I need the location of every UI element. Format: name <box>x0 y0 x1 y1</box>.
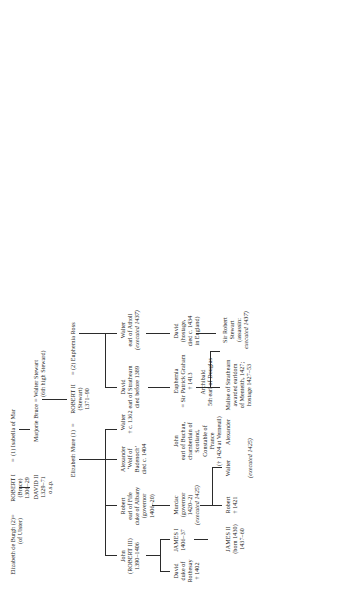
marriage-equals-5: = <box>70 369 77 377</box>
node-line: (hostage, <box>180 308 187 354</box>
node-line: 1306–29 <box>24 462 31 514</box>
node-line: (governor <box>141 478 148 534</box>
connector-h <box>160 540 161 572</box>
node-malise-of-strathearn: Malise of Strathearn awarded earldom of … <box>225 350 254 420</box>
connector-v <box>105 459 117 460</box>
node-line: Elizabeth de Burgh (2) <box>10 518 17 588</box>
node-archibald-douglas: Archibald 5th earl of Douglas <box>200 354 214 410</box>
node-line: ROBERT I <box>10 462 17 514</box>
marriage-equals-1: = <box>10 512 17 520</box>
connector-v <box>79 459 105 460</box>
connector-v <box>212 467 222 468</box>
marriage-equals-4: = <box>70 421 77 429</box>
node-elizabeth-mure: Elizabeth Mure (1) <box>70 430 77 494</box>
node-line: earl of Strathearn <box>127 360 134 414</box>
connector-v <box>19 429 30 430</box>
node-line: † 1402 <box>194 544 201 598</box>
connector-v <box>42 399 67 400</box>
node-robert-i: ROBERT I (Bruce) 1306–29 <box>10 462 31 514</box>
node-line: executed 1437) <box>243 306 250 354</box>
node-line: died c. 1404 <box>141 436 148 482</box>
node-sir-robert-stewart: Sir Robert Stewart (assassin: executed 1… <box>222 306 251 354</box>
node-murdac: Murdac (governor 1420–2) (executed 1425) <box>173 482 202 528</box>
node-line: (assassin: <box>236 306 243 354</box>
connector-v <box>152 505 170 506</box>
node-line: 1420–2) <box>187 482 194 528</box>
node-line: Euphemia <box>173 350 180 412</box>
node-robert-ii: ROBERT II (Stewart) 1371–90 <box>70 376 91 422</box>
node-robert-fife-albany: Robert earl of Fife duke of Albany (gove… <box>120 478 156 534</box>
node-executed-1425-note: (executed 1425) <box>247 430 254 486</box>
connector-v <box>148 387 170 388</box>
node-line: Marjorie Bruce <box>33 404 40 460</box>
node-line: died c. 1434 <box>187 308 194 354</box>
node-elizabeth-de-burgh: Elizabeth de Burgh (2) (of Ulster) <box>10 518 24 588</box>
node-david-hostage: David (hostage, died c. 1434 in England) <box>173 308 202 354</box>
node-line: Scotland, <box>194 404 201 478</box>
node-walter-stewart: Walter Stewart (6th high Steward) <box>33 325 47 397</box>
node-line: (of Ulster) <box>17 518 24 588</box>
node-line: Murdac <box>173 482 180 528</box>
node-line: Malise of Strathearn <box>225 350 232 420</box>
family-tree-diagram: Elizabeth de Burgh (2) (of Ulster) ROBER… <box>0 0 350 606</box>
node-line: Robert <box>120 478 127 534</box>
node-line: 1406–20) <box>149 478 156 534</box>
connector-v <box>196 333 216 334</box>
node-line: (Bruce) <box>17 462 24 514</box>
node-line: (executed 1425) <box>247 430 254 486</box>
node-line: Constable of <box>202 404 209 478</box>
node-line: (1) Isabella of Mar <box>10 378 17 456</box>
node-line: John <box>173 404 180 478</box>
connector-v <box>160 571 170 572</box>
marriage-equals-2: = <box>10 456 17 464</box>
node-line: 1437–60 <box>239 516 246 562</box>
connector-v <box>105 429 117 430</box>
node-line: Walter Stewart <box>33 325 40 397</box>
node-david-ii: DAVID II 1329–71 o.s.p. <box>33 464 54 510</box>
node-line: (2) Euphemia Ross <box>70 294 77 370</box>
node-line: Elizabeth Mure (1) <box>70 430 77 494</box>
node-isabella-of-mar: (1) Isabella of Mar <box>10 378 17 456</box>
node-line: (Stewart) <box>77 376 84 422</box>
connector-v <box>146 333 170 334</box>
connector-v <box>105 505 117 506</box>
node-line: † 1421 <box>232 486 239 524</box>
connector-v <box>160 539 170 540</box>
node-line: earl of Fife <box>127 478 134 534</box>
node-david-earl-of-strathearn: David earl of Strathearn died before 138… <box>120 360 141 414</box>
node-line: Walter <box>120 304 127 356</box>
node-line: Robert <box>225 486 232 524</box>
connector-v <box>79 333 105 334</box>
node-line: hostage 1427–53 <box>246 350 253 420</box>
node-line: † 1413 <box>187 350 194 412</box>
node-line: o.s.p. <box>47 464 54 510</box>
node-line: (6th high Steward) <box>40 325 47 397</box>
node-line: (ROBERT III) <box>127 526 134 586</box>
node-line: Rothesay <box>187 544 194 598</box>
node-line: Badenoch’ <box>134 436 141 482</box>
node-line: Archibald <box>200 354 207 410</box>
node-marjorie-bruce: Marjorie Bruce <box>33 404 40 460</box>
node-line: died before 1389 <box>134 360 141 414</box>
connector-v <box>212 505 222 506</box>
connector-h <box>212 468 213 506</box>
node-line: John <box>120 526 127 586</box>
connector-h <box>105 334 106 388</box>
connector-v <box>105 555 117 556</box>
node-line: ROBERT II <box>70 376 77 422</box>
node-line: 5th earl of Douglas <box>207 354 214 410</box>
connector-v <box>146 555 160 556</box>
node-line: Sir Robert <box>222 306 229 354</box>
node-walter-earl-of-atholl: Walter earl of Atholl (executed 1437) <box>120 304 141 356</box>
connector-v <box>19 487 30 488</box>
node-line: = Sir Patrick Graham <box>180 350 187 412</box>
node-line: (executed 1437) <box>134 304 141 356</box>
node-line: chamberlain of <box>187 404 194 478</box>
node-line: 1329–71 <box>40 464 47 510</box>
node-line: (governor <box>180 482 187 528</box>
connector-v <box>194 539 208 540</box>
node-euphemia-ross: (2) Euphemia Ross <box>70 294 77 370</box>
connector-v <box>200 505 212 506</box>
connector-v <box>210 351 220 352</box>
node-line: David <box>120 360 127 414</box>
